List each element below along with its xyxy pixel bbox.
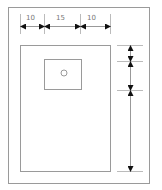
technical-drawing: 10 15 10 <box>0 0 162 190</box>
dim-label-1: 10 <box>26 14 35 22</box>
outer-frame <box>9 8 150 184</box>
hole-circle-icon <box>61 70 67 76</box>
inner-box <box>45 60 82 90</box>
dim-label-2: 15 <box>56 14 65 22</box>
dim-label-3: 10 <box>87 14 96 22</box>
panel <box>21 46 111 172</box>
